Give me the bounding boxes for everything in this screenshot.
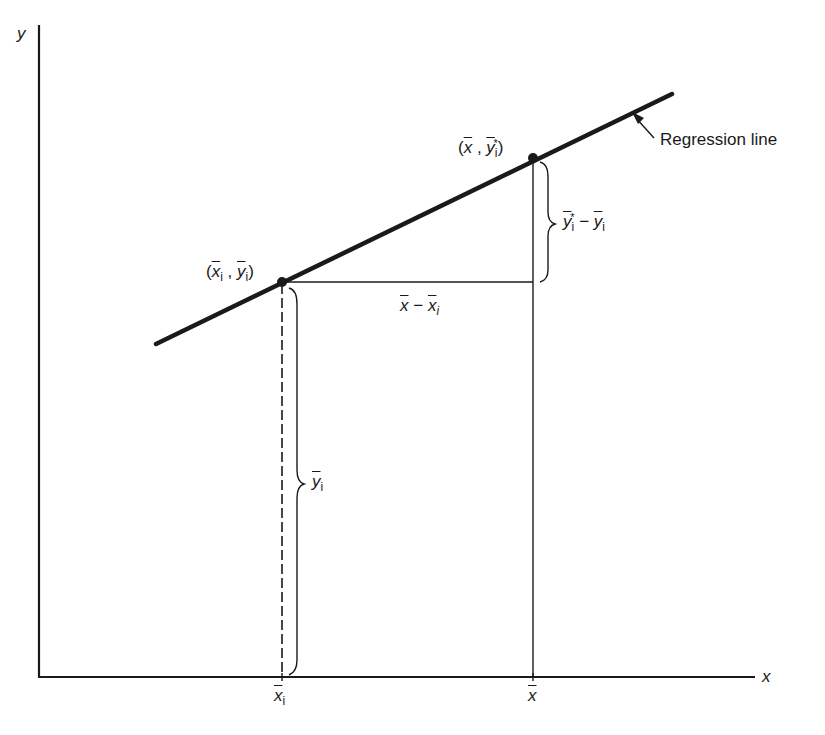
x-subscript: i [283, 694, 286, 708]
y-symbol: y [237, 262, 246, 281]
point-i-marker [277, 277, 287, 287]
regression-line-label: Regression line [660, 130, 777, 150]
x-symbol: x [274, 686, 283, 705]
x-subscript: i [220, 270, 223, 284]
b-subscript: i [602, 220, 605, 234]
y-axis-label: y [17, 24, 26, 44]
y-subscript: i [246, 270, 249, 284]
regression-arrow-head [632, 112, 644, 124]
x-tick-label-mean: x [528, 686, 537, 706]
separator: , [223, 262, 237, 281]
x-symbol: x [528, 686, 537, 705]
paren-close: ) [248, 262, 254, 281]
x-tick-label-i: xi [274, 686, 285, 706]
separator: , [472, 138, 486, 157]
point-i-label: (xi , yi) [206, 262, 254, 282]
b-subscript: i [436, 304, 439, 318]
x-axis-label: x [762, 667, 771, 687]
a-symbol: x [400, 296, 409, 315]
x-symbol: x [464, 138, 473, 157]
vertical-diff-label: yi* − yi [563, 212, 605, 232]
height-brace-label: yi [312, 472, 323, 492]
x-symbol: x [212, 262, 221, 281]
vertical-diff-brace [540, 162, 555, 282]
y-subscript: i [321, 480, 324, 494]
height-brace [289, 288, 304, 675]
minus-sign: − [409, 296, 428, 315]
diagram-canvas [0, 0, 825, 735]
point-mean-label: (x , yi*) [458, 138, 503, 158]
y-symbol: y [312, 472, 321, 491]
a-superscript: * [570, 211, 574, 223]
paren-close: ) [498, 138, 504, 157]
y-superscript: * [494, 137, 498, 149]
minus-sign: − [574, 212, 593, 231]
horizontal-diff-label: x − xi [400, 296, 439, 316]
point-mean-marker [528, 153, 538, 163]
